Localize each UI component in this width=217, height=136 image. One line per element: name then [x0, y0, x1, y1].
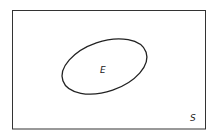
sample-space-label: S [190, 113, 196, 123]
venn-diagram: E S [0, 0, 217, 136]
event-label: E [100, 65, 106, 75]
sample-space-rectangle [13, 11, 206, 130]
